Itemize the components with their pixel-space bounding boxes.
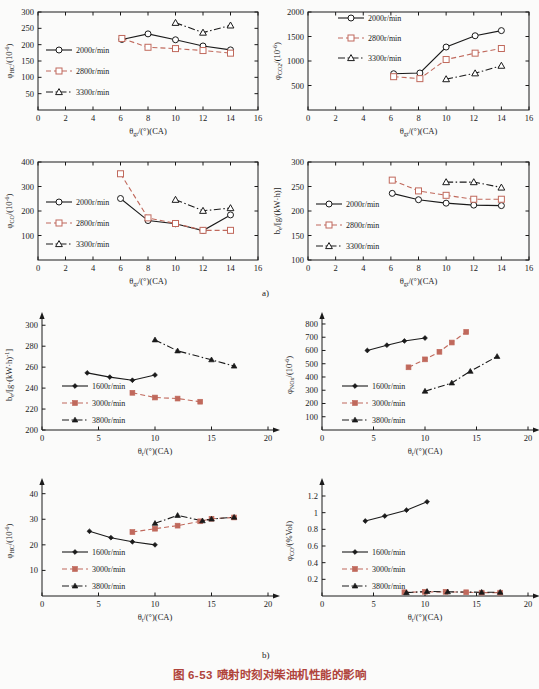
chart-panel-co2-a: 0246810121416500100015002000θgt/(°)(CA)φ…: [268, 2, 539, 142]
svg-text:1600r/min: 1600r/min: [372, 548, 405, 557]
svg-text:2000r/min: 2000r/min: [76, 198, 109, 207]
svg-text:200: 200: [305, 398, 318, 408]
svg-text:300: 300: [21, 7, 34, 17]
svg-text:4: 4: [361, 113, 366, 123]
svg-text:16: 16: [525, 263, 534, 273]
svg-text:φHC/(10-6): φHC/(10-6): [4, 523, 15, 558]
svg-text:20: 20: [524, 433, 533, 443]
svg-text:φCO/(10-6): φCO/(10-6): [4, 193, 15, 228]
svg-text:14: 14: [226, 263, 235, 273]
svg-text:150: 150: [21, 56, 34, 66]
svg-text:φHC/(10-6): φHC/(10-6): [4, 43, 15, 78]
svg-text:400: 400: [21, 157, 34, 167]
svg-text:2: 2: [334, 113, 338, 123]
svg-text:20: 20: [524, 599, 533, 609]
svg-text:800: 800: [305, 319, 318, 329]
svg-text:1.2: 1.2: [307, 491, 318, 501]
chart-co2-a: 0246810121416500100015002000θgt/(°)(CA)φ…: [268, 2, 539, 142]
svg-text:300: 300: [305, 385, 318, 395]
svg-text:0: 0: [36, 113, 40, 123]
svg-text:600: 600: [305, 345, 318, 355]
chart-co-b: 051015200.20.40.60.811.2θt/(°)(CA)φCO/(%…: [280, 470, 539, 635]
svg-text:5: 5: [96, 599, 100, 609]
svg-text:8: 8: [146, 113, 150, 123]
svg-text:5: 5: [371, 433, 375, 443]
svg-text:0: 0: [36, 263, 40, 273]
svg-text:3000r/min: 3000r/min: [372, 565, 405, 574]
chart-panel-co-b: 051015200.20.40.60.811.2θt/(°)(CA)φCO/(%…: [280, 470, 539, 635]
svg-text:3300r/min: 3300r/min: [76, 88, 109, 97]
svg-text:200: 200: [25, 425, 38, 435]
svg-text:8: 8: [416, 113, 420, 123]
svg-text:3300r/min: 3300r/min: [76, 240, 109, 249]
svg-text:16: 16: [525, 113, 534, 123]
chart-be-a: 0246810121416100150200250300θgt/(°)(CA)b…: [268, 146, 539, 288]
svg-text:10: 10: [171, 263, 180, 273]
svg-text:20: 20: [264, 433, 273, 443]
svg-text:φNOx/(10-6): φNOx/(10-6): [284, 356, 295, 394]
svg-text:12: 12: [470, 263, 479, 273]
svg-text:500: 500: [305, 359, 318, 369]
svg-text:2000r/min: 2000r/min: [346, 200, 379, 209]
figure-container: 024681012141650100150200250300θgt/(°)(CA…: [0, 0, 539, 689]
svg-text:4: 4: [91, 113, 96, 123]
svg-text:3000r/min: 3000r/min: [372, 399, 405, 408]
chart-panel-co-a: 0246810121416100200300400θgt/(°)(CA)φCO/…: [0, 146, 268, 288]
part-a-label: a): [262, 288, 269, 298]
svg-text:240: 240: [25, 383, 38, 393]
svg-text:700: 700: [305, 332, 318, 342]
svg-text:0: 0: [320, 433, 324, 443]
svg-text:θgt/(°)(CA): θgt/(°)(CA): [400, 126, 438, 137]
svg-text:500: 500: [291, 81, 304, 91]
svg-text:be/[g·(kW·h)-1]: be/[g·(kW·h)-1]: [4, 349, 15, 401]
svg-text:20: 20: [30, 540, 39, 550]
svg-text:1: 1: [314, 508, 318, 518]
svg-text:1600r/min: 1600r/min: [92, 548, 125, 557]
svg-text:100: 100: [21, 231, 34, 241]
chart-co-a: 0246810121416100200300400θgt/(°)(CA)φCO/…: [0, 146, 268, 288]
svg-text:2000r/min: 2000r/min: [76, 46, 109, 55]
svg-text:0.4: 0.4: [307, 558, 318, 568]
chart-nox-b: 05101520100200300400500600700800θt/(°)(C…: [280, 308, 539, 468]
svg-text:θgt/(°)(CA): θgt/(°)(CA): [400, 276, 438, 287]
svg-text:φCO/(%Vol): φCO/(%Vol): [284, 521, 295, 561]
svg-text:200: 200: [21, 40, 34, 50]
svg-text:6: 6: [389, 263, 393, 273]
svg-text:θt/(°)(CA): θt/(°)(CA): [138, 446, 173, 457]
svg-text:θgt/(°)(CA): θgt/(°)(CA): [129, 126, 167, 137]
svg-text:50: 50: [26, 89, 35, 99]
svg-text:θt/(°)(CA): θt/(°)(CA): [408, 446, 443, 457]
svg-text:300: 300: [21, 182, 34, 192]
svg-text:φCO2/(10-6): φCO2/(10-6): [272, 42, 283, 80]
chart-panel-nox-b: 05101520100200300400500600700800θt/(°)(C…: [280, 308, 539, 468]
svg-text:15: 15: [207, 599, 216, 609]
svg-text:8: 8: [416, 263, 420, 273]
svg-text:10: 10: [421, 433, 430, 443]
svg-text:be/[g/(kW·h)]: be/[g/(kW·h)]: [272, 188, 283, 235]
svg-text:0.6: 0.6: [307, 541, 318, 551]
svg-text:16: 16: [254, 113, 263, 123]
svg-text:100: 100: [21, 72, 34, 82]
chart-panel-hc-b: 0510152010203040θt/(°)(CA)φHC/(10-6)1600…: [0, 470, 280, 635]
chart-panel-be-a: 0246810121416100150200250300θgt/(°)(CA)b…: [268, 146, 539, 288]
svg-text:100: 100: [305, 412, 318, 422]
svg-text:12: 12: [199, 113, 208, 123]
svg-text:15: 15: [472, 599, 481, 609]
svg-text:200: 200: [21, 206, 34, 216]
svg-text:2800r/min: 2800r/min: [368, 34, 401, 43]
svg-text:2: 2: [334, 263, 338, 273]
svg-text:10: 10: [151, 599, 160, 609]
svg-text:0.8: 0.8: [307, 524, 318, 534]
svg-text:15: 15: [207, 433, 216, 443]
svg-text:4: 4: [361, 263, 366, 273]
svg-text:6: 6: [389, 113, 393, 123]
svg-text:300: 300: [25, 320, 38, 330]
chart-panel-hc-a: 024681012141650100150200250300θgt/(°)(CA…: [0, 2, 268, 142]
svg-text:2800r/min: 2800r/min: [346, 221, 379, 230]
svg-text:15: 15: [472, 433, 481, 443]
svg-text:2800r/min: 2800r/min: [76, 67, 109, 76]
svg-text:θt/(°)(CA): θt/(°)(CA): [408, 612, 443, 623]
svg-text:0: 0: [40, 433, 44, 443]
svg-text:10: 10: [442, 113, 451, 123]
svg-text:2: 2: [63, 263, 67, 273]
